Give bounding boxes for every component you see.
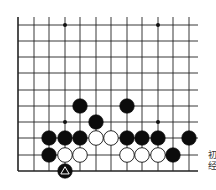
black-stone bbox=[89, 115, 104, 130]
black-stone bbox=[42, 131, 57, 146]
white-stone bbox=[151, 148, 166, 163]
star-point-icon bbox=[156, 23, 160, 27]
white-stone bbox=[73, 148, 88, 163]
black-stone bbox=[135, 131, 150, 146]
black-stone bbox=[58, 164, 73, 179]
caption-text: 初 经 bbox=[208, 150, 216, 172]
black-stone bbox=[42, 148, 57, 163]
white-stone bbox=[135, 148, 150, 163]
black-stone bbox=[58, 131, 73, 146]
go-board bbox=[0, 0, 216, 190]
white-stone bbox=[120, 148, 135, 163]
caption-line-2: 经 bbox=[208, 161, 216, 172]
black-stone bbox=[182, 131, 197, 146]
black-stone bbox=[120, 131, 135, 146]
caption-line-1: 初 bbox=[208, 150, 216, 161]
white-stone bbox=[58, 148, 73, 163]
white-stone bbox=[89, 131, 104, 146]
black-stone bbox=[166, 148, 181, 163]
white-stone bbox=[104, 131, 119, 146]
star-point-icon bbox=[63, 120, 67, 124]
black-stone bbox=[73, 131, 88, 146]
star-point-icon bbox=[63, 23, 67, 27]
black-stone bbox=[151, 131, 166, 146]
star-point-icon bbox=[156, 120, 160, 124]
black-stone bbox=[73, 99, 88, 114]
black-stone bbox=[120, 99, 135, 114]
